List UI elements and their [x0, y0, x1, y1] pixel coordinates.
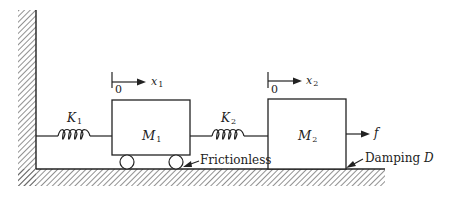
spring-k1-label: K1: [67, 112, 82, 126]
damping-leader-icon: [346, 159, 363, 168]
mass-m2-label: M2: [298, 129, 317, 144]
origin-x2-label: 0: [271, 84, 278, 95]
diagram-graphics: [0, 0, 450, 197]
diagram-canvas: K1 K2 M1 M2 0 0 x1 x2 f Frictionless Dam…: [0, 0, 450, 197]
frictionless-label: Frictionless: [200, 154, 272, 166]
damping-label: Damping D: [365, 152, 434, 164]
force-label: f: [374, 127, 378, 139]
origin-x1-label: 0: [115, 84, 122, 95]
frictionless-leader-icon: [183, 161, 199, 167]
wheels-icon: [120, 155, 183, 169]
mass-m1-label: M1: [142, 129, 161, 144]
displacement-x1-label: x1: [151, 76, 163, 89]
spring-k2-label: K2: [221, 112, 236, 126]
displacement-x2-label: x2: [306, 75, 318, 88]
spring-k2-icon: [190, 130, 268, 140]
force-arrow-icon: [346, 131, 370, 138]
spring-k1-icon: [36, 130, 112, 140]
